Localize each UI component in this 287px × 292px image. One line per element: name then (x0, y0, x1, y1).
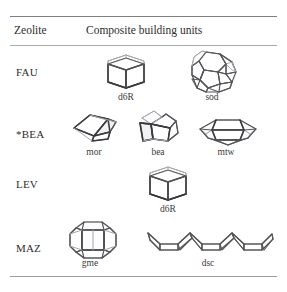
cbu-label-dsc: dsc (188, 258, 228, 268)
row-label-fau: FAU (16, 66, 38, 78)
cbu-figure-mor (68, 110, 122, 146)
column-header-zeolite: Zeolite (14, 24, 47, 36)
cbu-figure-d6r-fau (98, 52, 154, 92)
table-top-rule (10, 16, 277, 17)
cbu-label-sod: sod (192, 92, 232, 102)
cbu-label-gme: gme (70, 258, 110, 268)
row-label-maz: MAZ (16, 242, 41, 254)
cbu-label-mor: mor (74, 147, 114, 157)
table-bottom-rule (10, 276, 277, 277)
row-label-lev: LEV (16, 178, 38, 190)
cbu-figure-bea (132, 108, 186, 148)
cbu-label-d6r-lev: d6R (148, 204, 188, 214)
table-header-rule (10, 45, 277, 46)
caption-fragment (28, 0, 260, 9)
row-label-bea: *BEA (16, 128, 44, 140)
column-header-composite-building-units: Composite building units (86, 24, 202, 36)
table-figure: Zeolite Composite building units FAU d6R (0, 0, 287, 292)
cbu-figure-sod (186, 48, 242, 96)
cbu-figure-mtw (198, 112, 260, 148)
cbu-figure-d6r-lev (140, 164, 196, 204)
cbu-label-d6r-fau: d6R (106, 92, 146, 102)
cbu-label-mtw: mtw (206, 147, 246, 157)
cbu-figure-dsc (144, 228, 274, 258)
cbu-label-bea: bea (138, 147, 178, 157)
